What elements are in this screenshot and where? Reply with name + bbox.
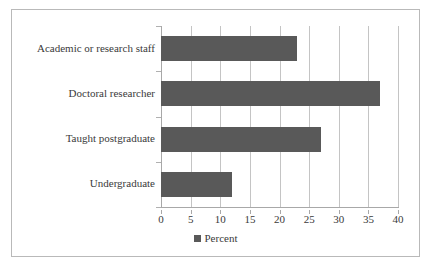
bar-fill <box>161 81 380 106</box>
x-tick-label-10: 10 <box>215 213 226 225</box>
bar-fill <box>161 172 232 197</box>
chart-frame: Academic or research staffDoctoral resea… <box>11 9 420 257</box>
x-tick-label-0: 0 <box>158 213 164 225</box>
plot-area <box>161 26 398 207</box>
x-tick-label-30: 30 <box>333 213 344 225</box>
category-label-4: Undergraduate <box>15 177 161 189</box>
gridline-40 <box>398 26 399 207</box>
x-axis-line <box>161 207 399 208</box>
bar-1 <box>161 36 398 61</box>
x-tick-label-15: 15 <box>244 213 255 225</box>
chart-legend: Percent <box>12 232 419 244</box>
category-label-3: Taught postgraduate <box>15 132 161 144</box>
bar-3 <box>161 127 398 152</box>
category-label-1: Academic or research staff <box>15 42 161 54</box>
x-tick-label-20: 20 <box>274 213 285 225</box>
x-tick-label-40: 40 <box>393 213 404 225</box>
bar-4 <box>161 172 398 197</box>
bar-fill <box>161 127 321 152</box>
x-tick-label-35: 35 <box>363 213 374 225</box>
x-tick-label-25: 25 <box>304 213 315 225</box>
category-axis-labels: Academic or research staffDoctoral resea… <box>12 26 161 207</box>
bar-fill <box>161 36 297 61</box>
bar-2 <box>161 81 398 106</box>
category-label-2: Doctoral researcher <box>15 87 161 99</box>
x-axis-tick-labels: 0510152025303540 <box>161 210 398 226</box>
legend-label-percent: Percent <box>205 232 238 244</box>
legend-swatch-percent <box>194 235 201 242</box>
x-tick-label-5: 5 <box>188 213 194 225</box>
